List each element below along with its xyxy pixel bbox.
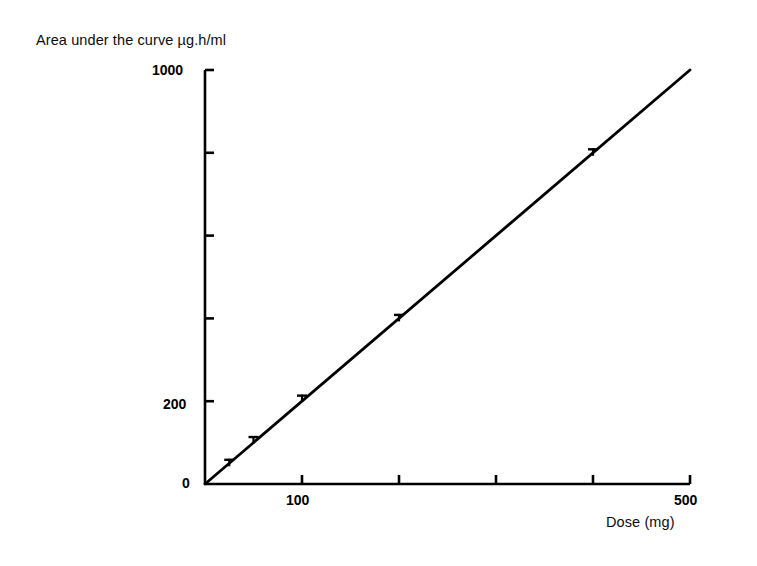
chart-figure: Area under the curve µg.h/ml 1000 200 0 … — [0, 0, 757, 566]
x-axis-ticks — [302, 475, 690, 484]
y-axis-ticks — [205, 70, 214, 401]
data-line — [205, 70, 690, 484]
plot-area — [0, 0, 757, 566]
fitted-line — [205, 70, 690, 484]
